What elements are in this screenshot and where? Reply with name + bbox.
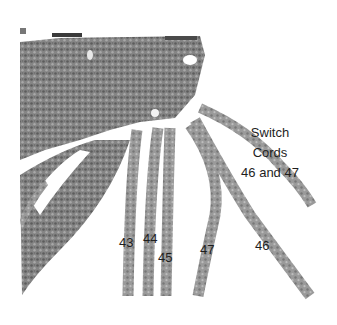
switch-cords-callout: Switch Cords 46 and 47 bbox=[228, 123, 312, 183]
cord-label-44: 44 bbox=[143, 231, 157, 246]
macrame-photo: Switch Cords 46 and 47 43 44 45 47 46 bbox=[0, 0, 337, 325]
callout-line-3: 46 and 47 bbox=[228, 163, 312, 183]
cord-45 bbox=[166, 128, 170, 296]
callout-line-2: Cords bbox=[228, 143, 312, 163]
cord-label-46: 46 bbox=[255, 238, 269, 253]
cord-label-47: 47 bbox=[200, 242, 214, 257]
cord-label-43: 43 bbox=[119, 235, 133, 250]
cord-43 bbox=[128, 130, 137, 296]
callout-line-1: Switch bbox=[228, 123, 312, 143]
cord-44 bbox=[148, 128, 158, 296]
cord-label-45: 45 bbox=[158, 250, 172, 265]
